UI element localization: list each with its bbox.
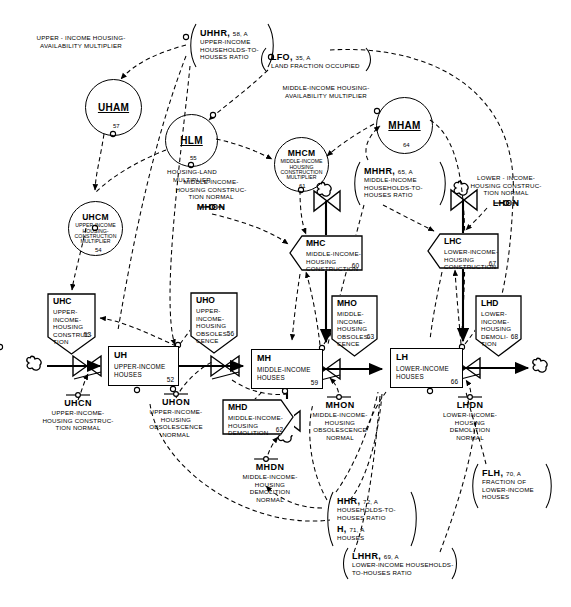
brk-uhhr: UHHR, 58, A UPPER-INCOMEHOUSEHOLDS-TO-HO… [200,28,274,61]
rate-mho-number: 63 [367,333,374,340]
rate-lhc[interactable]: LHC LOWER-INCOME-HOUSINGCONSTRUCTION 67 [427,233,499,269]
aux-uhcm-sub: UPPER-INCOMEHOUSING-CONSTRUCTIONMULTIPLI… [75,223,117,244]
brk-lfo: LFO, 35, A LAND FRACTION OCCUPIED [271,52,371,70]
aux-mhcm-number: 61 [299,183,306,189]
level-mh-desc: MIDDLE-INCOMEHOUSES [257,366,311,382]
level-mh[interactable]: MH MIDDLE-INCOMEHOUSES 59 [251,349,323,389]
brk-flh-hdr: FLH, 70, A [482,468,550,478]
rate-mhd[interactable]: MHD MIDDLE-INCOME-HOUSINGDEMOLITION 62 [222,399,294,435]
level-uh-desc: UPPER-INCOMEHOUSES [114,363,165,379]
rate-lhd-number: 68 [511,333,518,340]
rate-mhd-number: 62 [276,426,283,433]
diagram-canvas: UHAM 57 UPPER - INCOME HOUSING-AVAILABIL… [0,0,571,607]
rate-uhc[interactable]: UHC UPPER-INCOME-HOUSINGCONSTRUC-TION 53 [47,293,96,355]
brk-hhr-body: HOUSEHOLDS-TO-HOUSES RATIO [337,506,419,521]
brk-lhhr-hdr: LHHR, 69, A [352,551,458,561]
const-mhon-abbr: MHON [298,400,382,411]
aux-mhcm[interactable]: MHCM MIDDLE-INCOMEHOUSINGCONSTRUCTIONMUL… [274,137,329,192]
const-mhcn-abbr: MHCN [163,202,259,213]
rate-lhd[interactable]: LHD LOWER-INCOME-HOUSINGDEMOLI-TION 68 [475,295,522,357]
brk-mhhr: MHHR, 65, A MIDDLE-INCOMEHOUSEHOLDS-TO-H… [364,166,444,199]
rate-mho-abbr: MHO [337,298,357,308]
aux-uhcm[interactable]: UHCM UPPER-INCOMEHOUSING-CONSTRUCTIONMUL… [68,201,123,256]
brk-hhr: HHR, 72, A HOUSEHOLDS-TO-HOUSES RATIO [337,496,419,521]
rate-uho-abbr: UHO [196,295,215,305]
brk-lhhr-body: LOWER-INCOME HOUSEHOLDS-TO-HOUSES RATIO [352,561,458,576]
level-mh-abbr: MH [257,353,271,363]
level-mh-number: 59 [311,379,318,386]
rate-lhc-number: 67 [489,260,496,267]
aux-hlm[interactable]: HLM 55 [165,114,218,167]
rate-uhc-desc: UPPER-INCOME-HOUSINGCONSTRUC-TION [53,308,92,346]
rate-mhc-abbr: MHC [306,238,325,248]
const-uhcn-abbr: UHCN [30,398,126,409]
aux-hlm-abbr: HLM [180,135,203,146]
brk-h: H, 71, A HOUSES [337,524,419,542]
aux-uhcm-number: 54 [95,247,102,253]
rate-mho-desc: MIDDLE-INCOME-HOUSINGOBSOLES-CENCE [337,310,370,348]
level-lh-desc: LOWER-INCOMEHOUSES [396,365,449,381]
brk-lfo-hdr: LFO, 35, A [271,52,371,62]
const-lhcn: LOWER - INCOME-HOUSING CONSTRUC-TION NOR… [458,174,554,209]
brk-lhhr: LHHR, 69, A LOWER-INCOME HOUSEHOLDS-TO-H… [352,551,458,576]
level-lh-number: 66 [451,378,458,385]
const-mhcn: MIDDLE-INCOME-HOUSING CONSTRUC-TION NORM… [163,178,259,213]
rate-uho[interactable]: UHO UPPER-INCOME-HOUSINGOBSOLES-CENCE 56 [190,292,238,354]
brk-mhhr-body: MIDDLE-INCOMEHOUSEHOLDS-TO-HOUSES RATIO [364,176,444,199]
level-uh-number: 52 [167,376,174,383]
level-lh-abbr: LH [396,352,408,362]
const-uhon: UHON UPPER-INCOME-HOUSINGOBSOLESCENCENOR… [136,397,216,438]
rate-mho[interactable]: MHO MIDDLE-INCOME-HOUSINGOBSOLES-CENCE 6… [331,295,378,357]
const-mhon: MHON MIDDLE-INCOME-HOUSINGOBSOLESCENCENO… [298,400,382,441]
aux-mhcm-sub: MIDDLE-INCOMEHOUSINGCONSTRUCTIONMULTIPLI… [280,159,322,180]
rate-uho-desc: UPPER-INCOME-HOUSINGOBSOLES-CENCE [196,307,229,345]
level-uh[interactable]: UH UPPER-INCOMEHOUSES 52 [108,346,179,386]
aux-uhcm-abbr: UHCM [82,212,109,222]
rate-mhc[interactable]: MHC MIDDLE-INCOME-HOUSINGCONSTRUCTION 60 [289,235,363,271]
aux-uham[interactable]: UHAM 57 [85,79,142,136]
brk-lfo-body: LAND FRACTION OCCUPIED [271,62,371,70]
aux-hlm-number: 55 [190,155,197,161]
rate-lhc-abbr: LHC [444,236,461,246]
aux-mham[interactable]: MHAM 64 [376,97,433,154]
aux-mham-caption: MIDDLE-INCOME HOUSING-AVAILABILITY MULTI… [270,84,382,99]
rate-lhd-desc: LOWER-INCOME-HOUSINGDEMOLI-TION [481,310,511,348]
brk-flh: FLH, 70, A FRACTION OFLOWER-INCOMEHOUSES [482,468,550,501]
const-lhdn: LHDN LOWER-INCOME-HOUSINGDEMOLITIONNORMA… [428,400,512,441]
const-lhdn-abbr: LHDN [428,400,512,411]
brk-h-hdr: H, 71, A [337,524,419,534]
brk-hhr-hdr: HHR, 72, A [337,496,419,506]
brk-uhhr-body: UPPER-INCOMEHOUSEHOLDS-TO-HOUSES RATIO [200,38,274,61]
aux-mham-abbr: MHAM [388,120,420,131]
level-lh[interactable]: LH LOWER-INCOMEHOUSES 66 [390,348,463,388]
aux-uham-caption: UPPER - INCOME HOUSING-AVAILABILITY MULT… [16,34,146,49]
const-uhcn: UHCN UPPER-INCOME-HOUSING CONSTRUC-TION … [30,398,126,432]
const-lhcn-abbr: LHCN [458,198,554,209]
level-uh-abbr: UH [114,350,127,360]
rate-uhc-abbr: UHC [53,296,71,306]
aux-mhcm-abbr: MHCM [288,148,316,158]
const-uhon-abbr: UHON [136,397,216,408]
rate-mhc-number: 60 [352,262,359,269]
aux-uham-number: 57 [113,123,120,129]
aux-mham-number: 64 [403,142,410,148]
rate-mhd-abbr: MHD [228,402,247,412]
const-mhdn: MHDN MIDDLE-INCOME-HOUSINGDEMOLITIONNORM… [227,462,313,503]
brk-h-body: HOUSES [337,534,419,542]
rate-lhd-abbr: LHD [481,298,498,308]
brk-flh-body: FRACTION OFLOWER-INCOMEHOUSES [482,478,550,501]
aux-uham-abbr: UHAM [98,102,129,113]
brk-uhhr-hdr: UHHR, 58, A [200,28,274,38]
brk-mhhr-hdr: MHHR, 65, A [364,166,444,176]
rate-uhc-number: 53 [84,331,91,338]
rate-uho-number: 56 [227,330,234,337]
const-mhdn-abbr: MHDN [227,462,313,473]
